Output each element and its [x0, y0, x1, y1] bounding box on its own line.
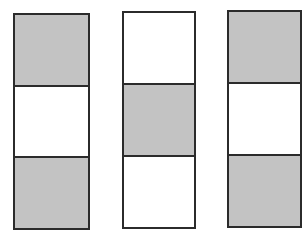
- cell-top: [124, 13, 194, 83]
- cell-bottom: [15, 156, 88, 228]
- column-3: [227, 10, 302, 228]
- cell-top: [229, 12, 300, 82]
- cell-top: [15, 15, 88, 85]
- cell-middle: [229, 82, 300, 154]
- column-2: [122, 11, 196, 229]
- cell-middle: [15, 85, 88, 157]
- cell-middle: [124, 83, 194, 155]
- cell-bottom: [229, 154, 300, 226]
- cell-bottom: [124, 155, 194, 227]
- column-1: [13, 13, 90, 230]
